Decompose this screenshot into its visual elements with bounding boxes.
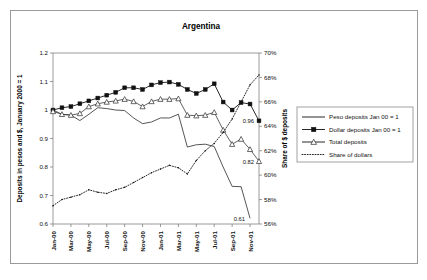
y-tick-label: 1.1 (39, 78, 48, 85)
marker-square (159, 81, 163, 85)
marker-dot (106, 193, 108, 195)
marker-dot (151, 172, 153, 174)
y-tick-label: 0.6 (39, 220, 48, 227)
marker-triangle (238, 136, 243, 141)
marker-square (114, 90, 118, 94)
marker-dot (79, 194, 81, 196)
marker-dot (231, 118, 233, 120)
y2-tick-label: 64% (264, 122, 277, 129)
marker-triangle (122, 97, 127, 102)
legend-label: Peso deposits Jan 00 = 1 (329, 113, 399, 120)
x-tick-label: Sep-00 (121, 230, 128, 251)
marker-dot (240, 101, 242, 103)
marker-square (212, 82, 216, 86)
marker-square (248, 102, 252, 106)
argentina-deposits-chart[interactable]: Argentina 0.60.70.80.911.11.2 56%58%60%6… (11, 11, 417, 263)
marker-square (96, 96, 100, 100)
y2-tick-label: 62% (264, 147, 277, 154)
y2-tick-label: 70% (264, 49, 277, 56)
legend-label: Total deposits (329, 138, 367, 145)
marker-dot (133, 182, 135, 184)
marker-dot (115, 189, 117, 191)
x-tick-label: Sep-01 (229, 230, 236, 251)
x-tick-label: Jul-01 (211, 230, 218, 248)
y-tick-label: 1 (45, 106, 49, 113)
marker-dot (178, 167, 180, 169)
marker-dot (97, 191, 99, 193)
data-series-group (50, 74, 261, 218)
marker-triangle (230, 142, 235, 147)
y-axis-right: 56%58%60%62%64%66%68%70% (259, 49, 277, 227)
chart-title: Argentina (182, 22, 221, 31)
series-dollar-deposits-jan-00-1 (51, 80, 261, 123)
y2-tick-label: 58% (264, 196, 277, 203)
marker-dot (249, 84, 251, 86)
y-tick-label: 1.2 (39, 49, 48, 56)
marker-dot (160, 168, 162, 170)
marker-dot (124, 187, 126, 189)
legend-label: Share of dollars (329, 151, 372, 158)
series-total-deposits (50, 96, 261, 164)
data-label: 0.96 (243, 118, 254, 124)
marker-square (221, 100, 225, 104)
legend-marker-square (312, 127, 316, 131)
data-label: 0.82 (243, 159, 254, 165)
marker-square (257, 119, 261, 123)
x-tick-label: Mar-00 (67, 230, 74, 251)
marker-square (150, 83, 154, 87)
marker-square (87, 99, 91, 103)
marker-square (69, 105, 73, 109)
marker-square (230, 108, 234, 112)
marker-square (132, 86, 136, 90)
marker-triangle (212, 110, 217, 115)
marker-dot (258, 74, 260, 76)
marker-dot (222, 132, 224, 134)
marker-dot (52, 205, 54, 207)
y2-tick-label: 66% (264, 98, 277, 105)
x-tick-label: Nov-01 (247, 230, 254, 251)
figure-frame: Argentina 0.60.70.80.911.11.2 56%58%60%6… (10, 10, 418, 264)
series-share-of-dollars (52, 74, 260, 206)
x-tick-label: Jan-01 (157, 230, 164, 250)
marker-square (185, 88, 189, 92)
marker-dot (142, 177, 144, 179)
legend-label: Dollar deposits Jan 00 = 1 (329, 126, 401, 133)
marker-dot (169, 165, 171, 167)
data-labels-group: 0.610.960.82 (234, 118, 254, 221)
x-axis: Jan-00Mar-00May-00Jul-00Sep-00Nov-00Jan-… (50, 53, 260, 252)
marker-square (168, 80, 172, 84)
marker-square (194, 92, 198, 96)
marker-dot (205, 150, 207, 152)
x-tick-label: Mar-01 (175, 230, 182, 251)
marker-square (203, 88, 207, 92)
data-label: 0.61 (234, 216, 245, 222)
marker-dot (70, 196, 72, 198)
y-tick-label: 0.9 (39, 135, 48, 142)
marker-square (60, 106, 64, 110)
marker-square (141, 88, 145, 92)
marker-triangle (140, 104, 145, 109)
marker-square (78, 102, 82, 106)
y-axis-right-title: Share of $ deposits (281, 109, 289, 168)
y-axis-left-title: Deposits in pesos and $, January 2000 = … (16, 74, 24, 202)
marker-dot (187, 173, 189, 175)
y-tick-label: 0.7 (39, 192, 48, 199)
x-tick-label: Jul-00 (103, 230, 110, 248)
x-tick-label: Jan-00 (50, 230, 57, 250)
marker-dot (88, 189, 90, 191)
marker-square (176, 82, 180, 86)
marker-square (105, 93, 109, 97)
x-tick-label: May-01 (193, 230, 200, 252)
marker-dot (213, 143, 215, 145)
marker-dot (61, 199, 63, 201)
chart-legend[interactable]: Peso deposits Jan 00 = 1Dollar deposits … (297, 107, 413, 162)
x-tick-label: May-00 (85, 230, 92, 252)
y2-tick-label: 68% (264, 74, 277, 81)
x-tick-label: Nov-00 (139, 230, 146, 251)
chart-figure: Argentina 0.60.70.80.911.11.2 56%58%60%6… (0, 0, 427, 280)
marker-square (123, 86, 127, 90)
y-tick-label: 0.8 (39, 163, 48, 170)
y-axis-left: 0.60.70.80.911.11.2 (39, 49, 53, 227)
y2-tick-label: 60% (264, 171, 277, 178)
marker-dot (196, 160, 198, 162)
